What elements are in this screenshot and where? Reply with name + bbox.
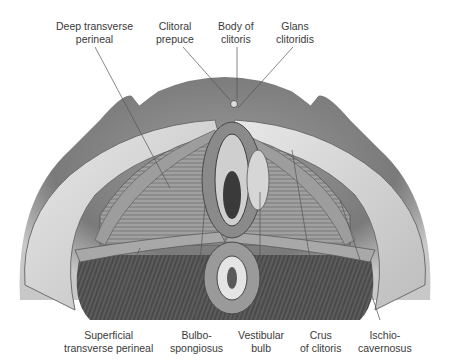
label-line: Ischio- [358,329,412,342]
label-crus-of-clitoris: Crus of clitoris [300,329,341,355]
label-line: perineal [56,33,133,46]
label-line: clitoridis [276,33,314,46]
label-line: Bulbo- [170,329,223,342]
label-line: Clitoral [156,20,194,33]
label-line: clitoris [218,33,254,46]
vestibular-bulb-shape [247,150,269,210]
label-body-of-clitoris: Body of clitoris [218,20,254,46]
label-line: Vestibular [238,329,284,342]
label-line: transverse perineal [64,342,153,355]
label-line: prepuce [156,33,194,46]
label-line: bulb [238,342,284,355]
label-line: cavernosus [358,342,412,355]
label-line: Glans [276,20,314,33]
glans-shape [231,101,238,108]
label-deep-transverse-perineal: Deep transverse perineal [56,20,133,46]
label-line: Superficial [64,329,153,342]
label-bulbospongiosus: Bulbo- spongiosus [170,329,223,355]
label-line: Body of [218,20,254,33]
anatomical-illustration [0,0,450,364]
label-line: Deep transverse [56,20,133,33]
label-glans-clitoridis: Glans clitoridis [276,20,314,46]
label-ischiocavernosus: Ischio- cavernosus [358,329,412,355]
label-line: Crus [300,329,341,342]
label-line: spongiosus [170,342,223,355]
label-line: of clitoris [300,342,341,355]
anal-opening [227,267,237,289]
vaginal-orifice [223,171,241,219]
label-superficial-transverse-perineal: Superficial transverse perineal [64,329,153,355]
label-clitoral-prepuce: Clitoral prepuce [156,20,194,46]
label-vestibular-bulb: Vestibular bulb [238,329,284,355]
